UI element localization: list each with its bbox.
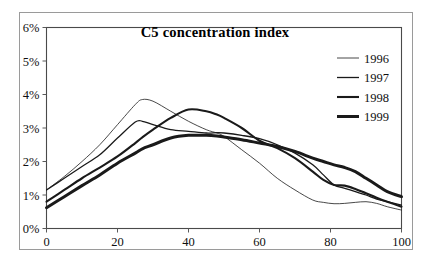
chart-figure: 0%1%2%3%4%5%6% 020406080100 C5 concentra… bbox=[0, 0, 426, 259]
legend-label-1998: 1998 bbox=[364, 91, 389, 105]
chart-title: C5 concentration index bbox=[141, 24, 290, 40]
x-tick-label: 60 bbox=[253, 235, 266, 249]
x-tick-label: 100 bbox=[392, 235, 411, 249]
y-tick-label: 5% bbox=[23, 55, 40, 69]
y-tick-label: 2% bbox=[23, 155, 40, 169]
legend-label-1996: 1996 bbox=[364, 52, 389, 66]
y-tick-label: 4% bbox=[23, 88, 40, 102]
y-tick-label: 1% bbox=[23, 189, 40, 203]
legend-label-1999: 1999 bbox=[364, 110, 389, 124]
y-tick-label: 6% bbox=[23, 21, 40, 35]
legend-label-1997: 1997 bbox=[364, 71, 389, 85]
x-tick-label: 0 bbox=[43, 235, 49, 249]
y-tick-label: 3% bbox=[23, 122, 40, 136]
x-tick-label: 40 bbox=[182, 235, 195, 249]
x-tick-label: 20 bbox=[111, 235, 124, 249]
y-tick-label: 0% bbox=[23, 222, 40, 236]
x-tick-label: 80 bbox=[324, 235, 337, 249]
